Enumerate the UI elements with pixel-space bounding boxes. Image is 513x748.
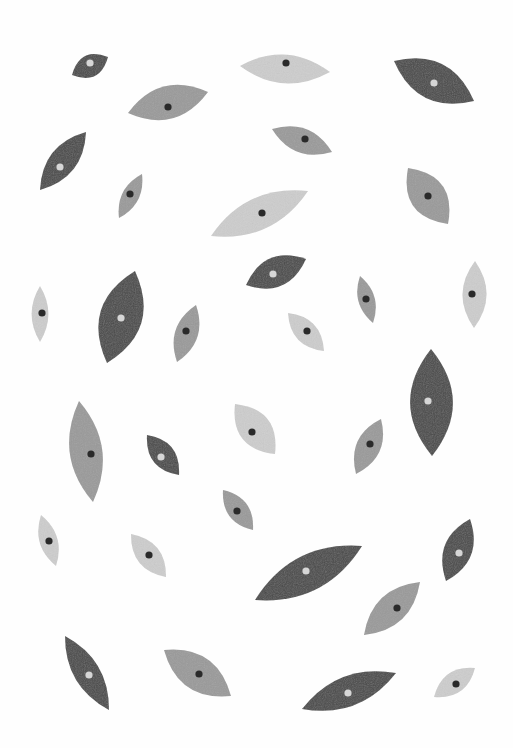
leaf-shape <box>164 650 231 697</box>
leaf-shape <box>302 671 396 711</box>
leaf-shape <box>394 58 474 104</box>
leaf-shape <box>434 668 475 697</box>
leaf-body <box>69 401 103 502</box>
leaf-shape <box>40 132 86 190</box>
leaf-dot-icon <box>344 689 351 696</box>
leaf-dot-icon <box>87 450 94 457</box>
leaf-dot-icon <box>145 551 152 558</box>
leaf-dot-icon <box>56 163 63 170</box>
leaf-dot-icon <box>157 453 164 460</box>
leaf-body <box>364 582 420 635</box>
artwork-canvas: Leaf-eye pattern <box>0 0 513 748</box>
leaf-dot-icon <box>45 537 52 544</box>
leaf-shape <box>357 276 376 323</box>
leaf-dot-icon <box>117 314 124 321</box>
leaf-shape <box>246 255 306 288</box>
leaf-dot-icon <box>301 135 308 142</box>
leaf-shape <box>462 261 486 328</box>
leaf-body <box>240 54 330 83</box>
leaf-shape <box>32 286 49 342</box>
leaf-shape <box>410 349 453 456</box>
leaf-shape <box>442 519 474 581</box>
leaf-dot-icon <box>182 327 189 334</box>
leaf-dot-icon <box>393 604 400 611</box>
leaf-shape <box>240 54 330 83</box>
leaf-body <box>40 132 86 190</box>
leaf-shape <box>354 419 383 474</box>
leaf-dot-icon <box>126 190 133 197</box>
leaf-dot-icon <box>248 428 255 435</box>
leaf-shape <box>147 435 179 475</box>
leaf-dot-icon <box>424 192 431 199</box>
leaf-shape <box>131 534 166 577</box>
leaf-body <box>410 349 453 456</box>
leaf-shape <box>119 174 143 218</box>
leaf-dot-icon <box>303 327 310 334</box>
leaf-shape <box>407 168 450 224</box>
leaf-shape <box>65 636 109 710</box>
leaf-shape <box>69 401 103 502</box>
leaf-dot-icon <box>430 79 437 86</box>
leaf-dot-icon <box>452 680 459 687</box>
leaf-dot-icon <box>282 59 289 66</box>
leaf-body <box>128 85 208 120</box>
leaf-body <box>246 255 306 288</box>
leaf-dot-icon <box>258 209 265 216</box>
leaf-dot-icon <box>164 103 171 110</box>
leaf-dot-icon <box>195 670 202 677</box>
leaf-dot-icon <box>86 59 93 66</box>
leaf-dot-icon <box>38 309 45 316</box>
leaf-dot-icon <box>269 270 276 277</box>
leaf-shape <box>235 404 276 454</box>
leaf-dot-icon <box>85 671 92 678</box>
leaf-dot-icon <box>455 549 462 556</box>
leaf-shape <box>128 85 208 120</box>
leaf-dot-icon <box>233 507 240 514</box>
leaf-shape <box>98 271 143 363</box>
leaf-shape <box>223 490 253 530</box>
leaf-shape <box>255 546 362 601</box>
leaf-dot-icon <box>366 440 373 447</box>
leaf-dot-icon <box>362 295 369 302</box>
leaf-dot-icon <box>302 567 309 574</box>
leaf-body <box>235 404 276 454</box>
leaf-shape <box>364 582 420 635</box>
leaf-shape <box>211 190 308 236</box>
leaf-pattern <box>0 0 513 748</box>
leaf-shape <box>174 305 200 362</box>
leaf-shape <box>72 54 108 78</box>
leaf-dot-icon <box>468 290 475 297</box>
leaf-shape <box>272 126 332 155</box>
leaf-shape <box>288 313 324 351</box>
leaf-dot-icon <box>424 397 431 404</box>
leaf-shape <box>38 515 59 566</box>
